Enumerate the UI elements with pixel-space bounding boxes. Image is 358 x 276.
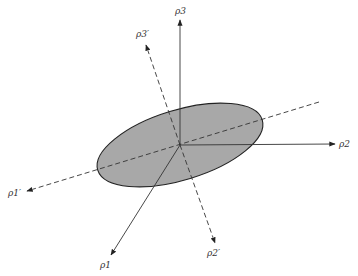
label-p1-prime: ρ1′ xyxy=(7,188,21,198)
ellipsoid-axes-diagram: ρ3 ρ3′ ρ2 ρ1′ ρ1 ρ2′ xyxy=(0,0,358,276)
label-p3-prime: ρ3′ xyxy=(135,29,149,39)
label-p1: ρ1 xyxy=(99,260,111,270)
label-p2-prime: ρ2′ xyxy=(206,248,220,258)
label-p3: ρ3 xyxy=(174,6,186,16)
label-p2: ρ2 xyxy=(338,139,350,149)
